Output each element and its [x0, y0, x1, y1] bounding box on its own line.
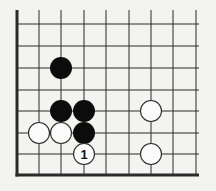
grid-lines: [16, 10, 200, 177]
white-stone: 1: [74, 144, 95, 165]
black-stone: [73, 100, 95, 122]
white-stone: [51, 123, 72, 144]
white-stone: [29, 123, 50, 144]
white-stone: [141, 101, 162, 122]
move-number-label: 1: [80, 147, 87, 162]
black-stone: [73, 122, 95, 144]
go-board: 1: [0, 0, 216, 191]
black-stone: [50, 100, 72, 122]
white-stone: [141, 144, 162, 165]
black-stone: [50, 57, 72, 79]
